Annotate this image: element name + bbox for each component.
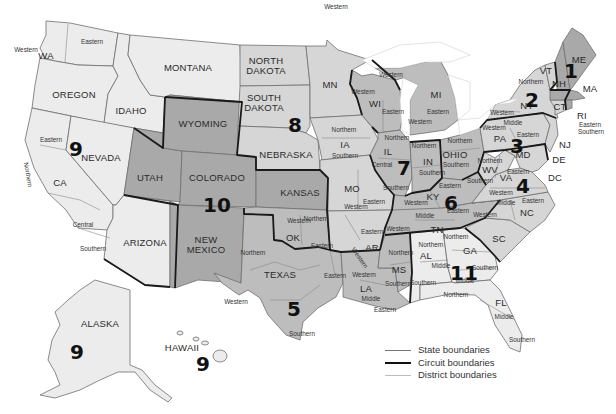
district-label: Northern <box>412 142 437 149</box>
state-label: AL <box>420 250 432 261</box>
state-label: OREGON <box>52 89 95 100</box>
state-label: DAKOTA <box>246 65 286 76</box>
circuit-number: 9 <box>196 352 210 376</box>
state-label: MA <box>583 83 598 94</box>
district-label: Middle <box>362 295 381 302</box>
state-label: MN <box>322 79 337 90</box>
state-label: KANSAS <box>280 187 320 198</box>
district-label: Northern <box>385 134 410 141</box>
circuit-number: 7 <box>397 156 411 180</box>
circuit-boundary-line-icon <box>385 362 411 364</box>
judicial-circuit-map: WAOREGONCANEVADAIDAHOMONTANAWYOMINGUTAHC… <box>0 0 616 414</box>
district-label: Northern <box>478 157 503 164</box>
district-label: Eastern <box>81 38 103 45</box>
legend-item-circuit: Circuit boundaries <box>385 357 497 370</box>
state-label: NC <box>520 207 534 218</box>
state-label: PA <box>494 133 507 144</box>
district-label: Western <box>324 3 348 10</box>
circuit-number: 2 <box>525 88 539 112</box>
district-label: Southern <box>578 128 604 135</box>
district-label: Western <box>14 46 38 53</box>
district-label: Southern <box>467 177 493 184</box>
district-label: Northern <box>444 291 469 298</box>
district-label: Southern <box>289 330 315 337</box>
circuit-number: 6 <box>444 191 458 215</box>
district-label: Eastern <box>40 136 62 143</box>
legend-item-district: District boundaries <box>385 369 497 382</box>
state-label: NEVADA <box>81 152 121 163</box>
state-label: OK <box>286 232 301 243</box>
map-legend: State boundaries Circuit boundaries Dist… <box>385 344 497 382</box>
district-label: Southern <box>509 336 535 343</box>
state-label: MO <box>344 183 360 194</box>
state-AK <box>40 280 172 402</box>
district-label: Northern <box>23 162 34 188</box>
district-label: Western <box>287 217 311 224</box>
district-label: Eastern <box>361 228 383 235</box>
district-label: Western <box>351 88 375 95</box>
district-label: Northern <box>241 249 266 256</box>
circuit-number: 1 <box>564 59 578 83</box>
state-label: CT <box>553 101 566 112</box>
district-label: Eastern <box>427 108 449 115</box>
district-label: Western <box>386 225 410 232</box>
circuit-number: 3 <box>510 134 524 158</box>
district-label: Western <box>489 189 513 196</box>
district-label: Middle <box>497 199 516 206</box>
district-label: Southern <box>443 161 469 168</box>
circuit-number: 11 <box>450 261 478 285</box>
district-label: Western <box>344 203 368 210</box>
district-label: Central <box>372 161 393 168</box>
district-label: Eastern <box>522 197 544 204</box>
state-label: DAKOTA <box>244 102 284 113</box>
district-label: Western <box>490 109 514 116</box>
state-label: OHIO <box>442 149 467 160</box>
legend-label: Circuit boundaries <box>418 357 495 370</box>
district-label: Southern <box>80 245 106 252</box>
district-label: Eastern <box>579 121 601 128</box>
circuit-number: 10 <box>203 193 231 217</box>
district-label: Middle <box>432 262 451 269</box>
legend-label: State boundaries <box>418 344 490 357</box>
district-label: Northern <box>448 137 473 144</box>
district-label: Middle <box>416 212 435 219</box>
district-label: Western <box>352 271 376 278</box>
district-label: Middle <box>504 119 523 126</box>
district-label: Southern <box>385 280 411 287</box>
district-label: Southern <box>383 184 409 191</box>
state-label: WV <box>482 164 498 175</box>
district-label: Western <box>408 118 432 125</box>
state-label: IL <box>384 146 392 157</box>
state-label: KY <box>426 191 440 202</box>
circuit-number: 4 <box>516 174 530 198</box>
district-label: Eastern <box>439 182 461 189</box>
legend-item-state: State boundaries <box>385 344 497 357</box>
district-label: Eastern <box>382 108 404 115</box>
state-label: UTAH <box>137 172 163 183</box>
state-label: MONTANA <box>164 62 213 73</box>
district-label: Southern <box>419 169 445 176</box>
district-label: Southern <box>410 279 436 286</box>
district-label: Northern <box>444 233 469 240</box>
state-label: LA <box>360 283 372 294</box>
district-label: Southern <box>332 152 358 159</box>
state-label: RI <box>577 110 587 121</box>
circuit-number: 8 <box>288 113 302 137</box>
state-label: CA <box>53 177 67 188</box>
district-label: Central <box>73 221 94 228</box>
state-label: WYOMING <box>179 118 228 129</box>
district-label: Northern <box>332 126 357 133</box>
district-label: Western <box>473 211 497 218</box>
state-label: NJ <box>559 139 571 150</box>
state-label: WI <box>369 98 381 109</box>
district-label: Western <box>224 298 248 305</box>
state-label: MS <box>392 264 407 275</box>
state-label: NEBRASKA <box>259 149 313 160</box>
state-RI <box>566 100 572 110</box>
circuit-number: 9 <box>69 137 83 161</box>
state-label: DC <box>548 172 562 183</box>
state-label: IDAHO <box>115 105 146 116</box>
state-label: FL <box>495 297 507 308</box>
state-label: ALASKA <box>81 318 120 329</box>
state-boundary-line-icon <box>385 350 411 351</box>
